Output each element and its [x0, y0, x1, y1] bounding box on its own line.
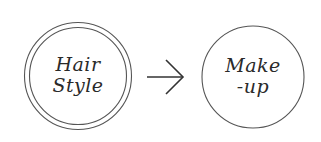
arrow-icon: [147, 60, 183, 94]
node-hair-style-line-2: Style: [28, 75, 128, 96]
node-hair-style-label: Hair Style: [28, 54, 128, 96]
node-make-up-label: Make -up: [203, 55, 303, 97]
node-make-up-line-2: -up: [203, 76, 303, 97]
node-hair-style-line-1: Hair: [28, 54, 128, 75]
node-make-up-line-1: Make: [203, 55, 303, 76]
